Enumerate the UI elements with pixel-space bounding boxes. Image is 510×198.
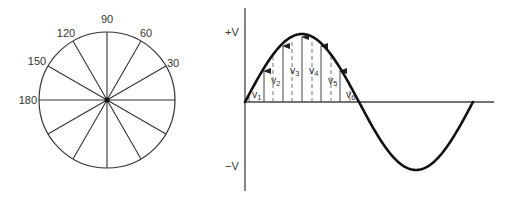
- spoke-60: [107, 41, 141, 100]
- angle-label-90: 90: [101, 13, 113, 25]
- spoke-330: [107, 100, 166, 134]
- spoke-210: [48, 100, 107, 134]
- angle-label-30: 30: [167, 57, 179, 69]
- spoke-300: [107, 100, 141, 159]
- value-label-v5: v5: [328, 74, 337, 88]
- sine-wave-graph: +V −V v1v2v3v4v5v6: [225, 8, 494, 191]
- spoke-150: [48, 66, 107, 100]
- angle-label-150: 150: [28, 55, 46, 67]
- phasor-circle: 906030120150180: [19, 13, 179, 168]
- angle-label-60: 60: [140, 27, 152, 39]
- plus-v-label: +V: [225, 26, 239, 38]
- diagram-canvas: 906030120150180 +V −V v1v2v3v4v5v6: [0, 0, 510, 198]
- angle-label-120: 120: [57, 27, 75, 39]
- value-label-v2: v2: [271, 74, 280, 88]
- angle-label-180: 180: [19, 94, 37, 106]
- value-label-v3: v3: [290, 64, 299, 78]
- angle-labels: 906030120150180: [19, 13, 179, 106]
- value-label-v1: v1: [252, 88, 261, 102]
- center-dot: [105, 98, 110, 103]
- spoke-30: [107, 66, 166, 100]
- minus-v-label: −V: [225, 160, 239, 172]
- spoke-240: [73, 100, 107, 159]
- value-label-v4: v4: [309, 64, 318, 78]
- spoke-120: [73, 41, 107, 100]
